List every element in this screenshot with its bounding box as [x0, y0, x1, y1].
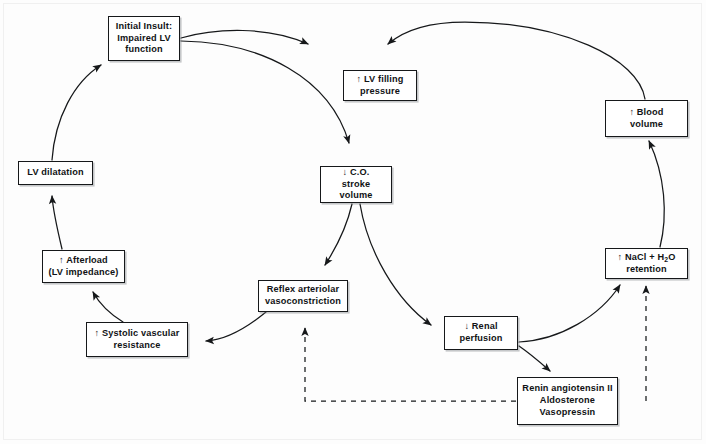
- node-nacl-retention-label: ↑ NaCl + H2Oretention: [618, 252, 676, 276]
- node-cardiac-output-label: ↓ C.O. stroke volume: [324, 167, 388, 202]
- edge-renal-perfusion-to-nacl-retention: [519, 285, 620, 342]
- node-afterload[interactable]: ↑ Afterload (LV impedance): [42, 250, 125, 283]
- diagram-canvas: Initial Insult: Impaired LV function ↑ L…: [0, 0, 706, 444]
- node-cardiac-output[interactable]: ↓ C.O. stroke volume: [320, 166, 392, 203]
- edge-nacl-retention-to-blood-volume: [649, 141, 664, 247]
- edge-blood-volume-to-lv-filling-pressure: [388, 22, 645, 99]
- node-renal-perfusion[interactable]: ↓ Renal perfusion: [444, 316, 518, 350]
- node-lv-filling-pressure[interactable]: ↑ LV filling pressure: [343, 70, 417, 101]
- edge-initial-insult-to-cardiac-output: [181, 41, 349, 143]
- node-renin-system-label: Renin angiotensin II Aldosterone Vasopre…: [522, 383, 612, 418]
- edge-systolic-vascular-resistance-to-afterload: [93, 292, 123, 322]
- node-blood-volume-label: ↑ Blood volume: [629, 107, 663, 131]
- node-nacl-retention[interactable]: ↑ NaCl + H2Oretention: [605, 248, 688, 279]
- node-blood-volume[interactable]: ↑ Blood volume: [605, 100, 688, 137]
- edge-cardiac-output-to-reflex-vasoconstriction: [325, 204, 352, 265]
- node-lv-filling-pressure-label: ↑ LV filling pressure: [356, 74, 403, 98]
- edge-afterload-to-lv-dilatation: [52, 196, 62, 249]
- node-renal-perfusion-label: ↓ Renal perfusion: [459, 321, 502, 345]
- node-reflex-vasoconstriction-label: Reflex arteriolar vasoconstriction: [265, 284, 341, 308]
- node-systolic-vascular-resistance-label: ↑ Systolic vascular resistance: [94, 328, 179, 352]
- node-renin-system[interactable]: Renin angiotensin II Aldosterone Vasopre…: [517, 377, 618, 425]
- node-initial-insult[interactable]: Initial Insult: Impaired LV function: [108, 16, 180, 61]
- edge-cardiac-output-to-renal-perfusion: [360, 204, 431, 325]
- edge-reflex-vasoconstriction-to-systolic-vascular-resistance: [206, 312, 266, 341]
- node-reflex-vasoconstriction[interactable]: Reflex arteriolar vasoconstriction: [258, 280, 348, 312]
- node-afterload-label: ↑ Afterload (LV impedance): [49, 255, 119, 279]
- node-systolic-vascular-resistance[interactable]: ↑ Systolic vascular resistance: [86, 322, 188, 357]
- node-initial-insult-label: Initial Insult: Impaired LV function: [116, 21, 172, 56]
- edge-renal-perfusion-to-renin-system: [519, 346, 550, 371]
- node-lv-dilatation-label: LV dilatation: [27, 167, 83, 179]
- node-lv-dilatation[interactable]: LV dilatation: [18, 161, 93, 185]
- edge-lv-dilatation-to-initial-insult: [52, 65, 101, 160]
